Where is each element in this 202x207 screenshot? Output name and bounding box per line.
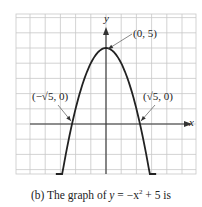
y-axis-label: y: [104, 12, 109, 24]
caption-suffix: + 5 is: [142, 189, 171, 201]
right-intercept-label: (√5, 0): [143, 90, 173, 102]
caption-eq: = −x: [114, 189, 138, 201]
figure-caption: (b) The graph of y = −x2 + 5 is: [0, 188, 202, 201]
parabola-chart: [0, 0, 202, 207]
x-axis-label: x: [189, 116, 194, 128]
left-intercept-label: (−√5, 0): [32, 90, 68, 102]
vertex-label: (0, 5): [133, 27, 157, 39]
caption-prefix: (b) The graph of: [31, 189, 109, 201]
